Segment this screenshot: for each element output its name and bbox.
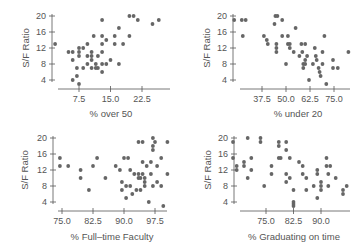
data-point <box>86 42 90 46</box>
y-tick-label: 20 <box>37 133 47 143</box>
data-point <box>341 192 345 196</box>
data-point <box>161 204 165 208</box>
data-point <box>235 164 239 168</box>
data-point <box>301 66 305 70</box>
data-point <box>284 62 288 66</box>
data-point <box>325 156 329 160</box>
data-point <box>315 196 319 200</box>
data-point <box>75 66 79 70</box>
data-point <box>137 172 141 176</box>
y-tick-label: 4 <box>222 75 227 85</box>
data-point <box>66 164 70 168</box>
data-point <box>276 14 280 18</box>
x-tick-label: 82.5 <box>285 216 303 226</box>
data-point <box>294 26 298 30</box>
y-tick-label: 20 <box>217 11 227 21</box>
data-point <box>124 196 128 200</box>
data-point <box>315 58 319 62</box>
data-point <box>151 184 155 188</box>
y-tick-label: 8 <box>222 59 227 69</box>
data-point <box>259 136 263 140</box>
data-point <box>90 58 94 62</box>
data-point <box>159 184 163 188</box>
data-point <box>303 62 307 66</box>
data-point <box>325 164 329 168</box>
data-point <box>166 172 170 176</box>
y-tick-label: 16 <box>218 149 228 159</box>
data-point <box>304 176 308 180</box>
data-point <box>232 18 236 22</box>
x-tick-label: 7.5 <box>73 94 86 104</box>
data-point <box>288 156 292 160</box>
data-point <box>136 18 140 22</box>
data-point <box>317 66 321 70</box>
data-point <box>117 62 121 66</box>
y-tick-label: 12 <box>36 43 46 53</box>
data-point <box>143 180 147 184</box>
data-point <box>145 164 149 168</box>
data-point <box>300 42 304 46</box>
data-point <box>137 140 141 144</box>
y-tick-label: 8 <box>223 181 228 191</box>
data-point <box>319 74 323 78</box>
data-point <box>334 176 338 180</box>
data-point <box>280 34 284 38</box>
plot-area: 481216207.515.022.5 <box>36 11 170 104</box>
data-point <box>151 148 155 152</box>
data-point <box>128 168 132 172</box>
x-tick-label: 22.5 <box>133 94 151 104</box>
data-point <box>241 34 245 38</box>
data-point <box>266 42 270 46</box>
data-point <box>113 42 117 46</box>
data-point <box>326 184 330 188</box>
data-point <box>288 42 292 46</box>
data-point <box>132 14 136 18</box>
data-point <box>71 50 75 54</box>
y-tick-label: 16 <box>36 27 46 37</box>
data-point <box>143 176 147 180</box>
data-point <box>81 46 85 50</box>
data-point <box>128 184 132 188</box>
data-point <box>147 200 151 204</box>
data-point <box>336 66 340 70</box>
y-tick-label: 12 <box>218 165 228 175</box>
data-point <box>71 58 75 62</box>
data-point <box>288 46 292 50</box>
data-point <box>301 172 305 176</box>
data-point <box>100 18 104 22</box>
data-point <box>277 140 281 144</box>
data-point <box>141 140 145 144</box>
data-point <box>114 164 118 168</box>
data-point <box>95 156 99 160</box>
data-point <box>244 18 248 22</box>
data-point <box>130 192 134 196</box>
data-point <box>286 34 290 38</box>
data-point <box>280 18 284 22</box>
data-point <box>104 38 108 42</box>
data-point <box>141 160 145 164</box>
data-point <box>319 184 323 188</box>
data-point <box>117 26 121 30</box>
panel-full-time-faculty: S/F Ratio % Full–time Faculty 4812162075… <box>19 133 169 242</box>
panel-under-20: S/F Ratio % under 20 4812162037.550.062.… <box>201 11 350 119</box>
data-point <box>91 164 95 168</box>
x-axis-title: % under 20 <box>274 108 323 119</box>
data-point <box>275 50 279 54</box>
y-axis-title: S/F Ratio <box>19 150 30 190</box>
data-point <box>149 160 153 164</box>
data-point <box>246 176 250 180</box>
data-point <box>141 172 145 176</box>
x-tick-label: 50.0 <box>277 94 295 104</box>
data-point <box>71 78 75 82</box>
data-point <box>231 156 235 160</box>
data-point <box>292 50 296 54</box>
data-point <box>298 54 302 58</box>
data-point <box>87 188 91 192</box>
data-point <box>249 168 253 172</box>
data-point <box>231 140 235 144</box>
y-tick-label: 4 <box>42 197 47 207</box>
data-point <box>67 50 71 54</box>
data-point <box>77 50 81 54</box>
data-point <box>321 62 325 66</box>
data-point <box>307 78 311 82</box>
